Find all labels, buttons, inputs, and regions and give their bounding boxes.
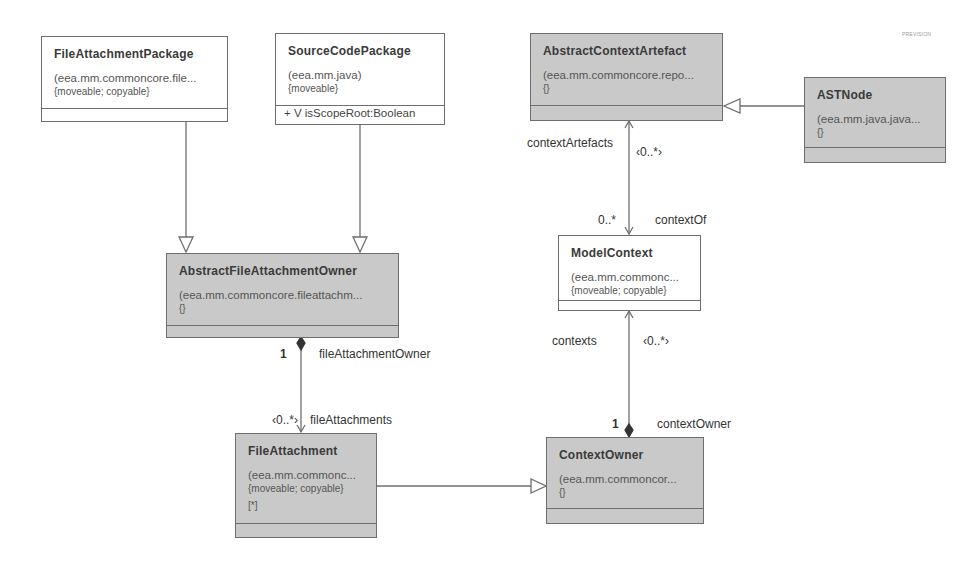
multiplicity-label: ‹0..*› <box>643 334 669 348</box>
role-label[interactable]: contextArtefacts <box>527 136 613 150</box>
class-multiplicity: [*] <box>236 499 376 513</box>
compartment-divider <box>236 523 376 524</box>
class-properties: {} <box>531 82 722 96</box>
class-properties: {moveable; copyable} <box>42 85 227 99</box>
multiplicity-label: ‹0..*› <box>636 145 662 159</box>
class-attribute[interactable]: + V isScopeRoot:Boolean <box>284 107 415 119</box>
role-label[interactable]: fileAttachments <box>310 413 392 427</box>
compartment-divider <box>547 508 703 509</box>
class-properties: {moveable} <box>276 82 444 96</box>
class-namespace: (eea.mm.commoncore.file... <box>42 71 227 85</box>
role-label[interactable]: contextOwner <box>657 417 731 431</box>
class-name: SourceCodePackage <box>276 34 444 58</box>
class-properties: {} <box>547 486 703 500</box>
class-model-context[interactable]: ModelContext (eea.mm.commonc... {moveabl… <box>558 235 701 311</box>
class-namespace: (eea.mm.commoncore.repo... <box>531 68 722 82</box>
multiplicity-label: ‹0..*› <box>272 413 298 427</box>
multiplicity-label: 1 <box>280 347 287 361</box>
role-label[interactable]: fileAttachmentOwner <box>319 347 430 361</box>
multiplicity-label: 0..* <box>598 213 616 227</box>
class-name: ASTNode <box>805 78 945 102</box>
compartment-divider <box>805 147 945 148</box>
class-file-attachment[interactable]: FileAttachment (eea.mm.commonc... {movea… <box>235 433 377 538</box>
generalization-arrow-icon <box>531 479 546 493</box>
watermark-logo: PREVISION <box>902 31 931 37</box>
class-context-owner[interactable]: ContextOwner (eea.mm.commoncor... {} <box>546 437 704 524</box>
class-abstract-file-attachment-owner[interactable]: AbstractFileAttachmentOwner (eea.mm.comm… <box>166 253 399 338</box>
generalization-arrow-icon <box>353 237 367 252</box>
compartment-divider <box>531 105 722 106</box>
compartment-divider <box>42 108 227 109</box>
class-namespace: (eea.mm.java) <box>276 68 444 82</box>
generalization-arrow-icon <box>179 237 193 252</box>
multiplicity-label: 1 <box>612 417 619 431</box>
class-name: FileAttachmentPackage <box>42 37 227 61</box>
role-label[interactable]: contextOf <box>655 213 706 227</box>
class-properties: {moveable; copyable} <box>559 284 700 298</box>
class-ast-node[interactable]: ASTNode (eea.mm.java.java... {} <box>804 77 946 163</box>
class-namespace: (eea.mm.commoncore.fileattachm... <box>167 288 398 302</box>
class-abstract-context-artefact[interactable]: AbstractContextArtefact (eea.mm.commonco… <box>530 33 723 121</box>
class-namespace: (eea.mm.java.java... <box>805 112 945 126</box>
class-name: AbstractFileAttachmentOwner <box>167 254 398 278</box>
composition-diamond-icon <box>625 424 633 437</box>
class-namespace: (eea.mm.commoncor... <box>547 472 703 486</box>
class-namespace: (eea.mm.commonc... <box>236 468 376 482</box>
composition-diamond-icon <box>297 337 305 350</box>
class-file-attachment-package[interactable]: FileAttachmentPackage (eea.mm.commoncore… <box>41 36 228 122</box>
compartment-divider <box>276 105 444 106</box>
class-namespace: (eea.mm.commonc... <box>559 270 700 284</box>
class-name: AbstractContextArtefact <box>531 34 722 58</box>
class-properties: {moveable; copyable} <box>236 482 376 496</box>
class-name: ContextOwner <box>547 438 703 462</box>
class-name: ModelContext <box>559 236 700 260</box>
class-properties: {} <box>805 126 945 140</box>
compartment-divider <box>167 325 398 326</box>
compartment-divider <box>559 300 700 301</box>
class-name: FileAttachment <box>236 434 376 458</box>
role-label[interactable]: contexts <box>552 334 597 348</box>
class-properties: {} <box>167 302 398 316</box>
generalization-arrow-icon <box>724 99 740 113</box>
class-source-code-package[interactable]: SourceCodePackage (eea.mm.java) {moveabl… <box>275 33 445 125</box>
